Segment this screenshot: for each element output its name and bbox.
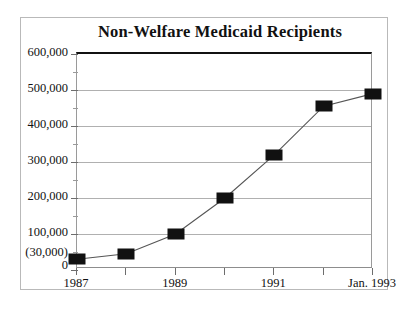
x-axis-tick — [175, 268, 176, 275]
x-axis-tick — [372, 268, 373, 275]
chart-title: Non-Welfare Medicaid Recipients — [60, 22, 380, 42]
data-point-marker — [315, 101, 332, 112]
data-point-marker — [118, 248, 135, 259]
y-axis-label: 200,000 — [27, 190, 68, 202]
series-line — [77, 54, 373, 270]
data-point-marker — [217, 193, 234, 204]
x-axis-tick — [224, 268, 225, 275]
plot-area — [76, 52, 372, 268]
x-axis-label: 1987 — [31, 276, 121, 291]
y-axis-label: 500,000 — [27, 82, 68, 94]
x-axis-label: 1989 — [130, 276, 220, 291]
data-point-marker — [365, 88, 382, 99]
x-axis-label: Jan. 1993 — [327, 276, 410, 291]
x-axis-tick — [323, 268, 324, 275]
x-axis-tick — [125, 268, 126, 275]
y-axis-label: 400,000 — [27, 118, 68, 130]
data-point-marker — [167, 229, 184, 240]
x-axis-tick — [273, 268, 274, 275]
y-axis-label: (30,000) — [25, 246, 68, 258]
y-axis-label: 0 — [62, 259, 68, 271]
y-axis-label: 300,000 — [27, 154, 68, 166]
y-axis-label: 100,000 — [27, 226, 68, 238]
x-axis-tick — [76, 268, 77, 275]
data-point-marker — [69, 254, 86, 265]
data-point-marker — [266, 149, 283, 160]
y-axis-label: 600,000 — [27, 46, 68, 58]
x-axis-label: 1991 — [228, 276, 318, 291]
